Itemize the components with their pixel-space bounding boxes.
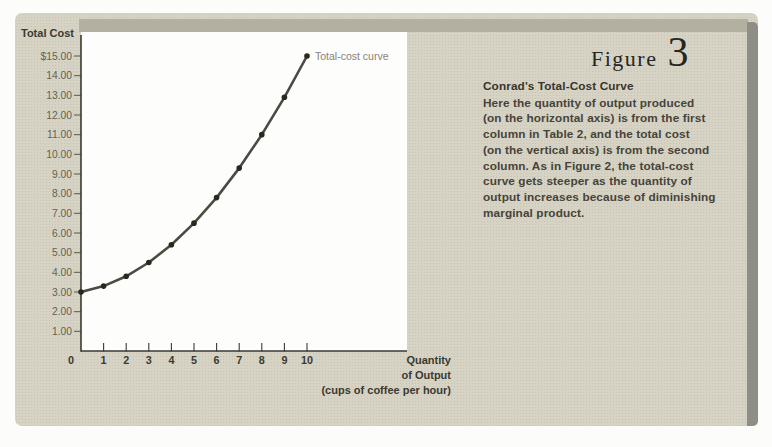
- data-point: [146, 260, 152, 266]
- figure-caption: Conrad's Total-Cost Curve Here the quant…: [483, 79, 749, 221]
- x-tick-label: 2: [123, 354, 129, 366]
- y-axis-title: Total Cost: [21, 27, 74, 39]
- y-tick-label: 10.00: [46, 149, 72, 160]
- series-annotation: Total-cost curve: [315, 50, 389, 62]
- y-tick-label: 6.00: [52, 228, 72, 239]
- x-tick-label: 1: [101, 354, 107, 366]
- x-tick-label: 4: [168, 354, 174, 366]
- total-cost-chart: Total Cost$15.0014.0013.0012.0011.0010.0…: [15, 13, 485, 413]
- x-tick-label: 6: [214, 354, 220, 366]
- data-point: [214, 195, 220, 201]
- y-tick-label: $15.00: [41, 51, 73, 62]
- y-tick-label: 8.00: [52, 188, 72, 199]
- y-tick-label: 9.00: [52, 169, 72, 180]
- data-point: [282, 95, 288, 101]
- y-tick-label: 12.00: [46, 110, 72, 121]
- y-tick-label: 2.00: [52, 306, 72, 317]
- y-tick-label: 4.00: [52, 267, 72, 278]
- y-tick-label: 11.00: [47, 129, 72, 140]
- data-point: [191, 220, 197, 226]
- chart-canvas: Total Cost$15.0014.0013.0012.0011.0010.0…: [15, 13, 485, 413]
- plot-background: [81, 32, 407, 351]
- y-tick-label: 1.00: [52, 326, 72, 337]
- y-tick-label: 13.00: [46, 90, 72, 101]
- data-point: [169, 242, 175, 248]
- figure-number: 3: [667, 31, 688, 73]
- y-tick-label: 5.00: [52, 247, 72, 258]
- caption-title: Conrad's Total-Cost Curve: [483, 79, 749, 95]
- x-tick-label: 0: [68, 354, 74, 366]
- x-tick-label: 5: [191, 354, 197, 366]
- data-point: [78, 289, 84, 295]
- x-tick-label: 9: [281, 354, 287, 366]
- figure-header: Figure 3: [591, 31, 688, 73]
- y-tick-label: 7.00: [52, 208, 72, 219]
- data-point: [304, 53, 310, 59]
- figure-panel: Total Cost$15.0014.0013.0012.0011.0010.0…: [15, 13, 758, 426]
- data-point: [123, 273, 129, 279]
- x-tick-label: 10: [301, 354, 313, 366]
- figure-label: Figure: [591, 46, 657, 72]
- y-tick-label: 14.00: [46, 70, 72, 81]
- data-point: [236, 165, 242, 171]
- x-axis-title-line: of Output: [402, 369, 452, 381]
- y-tick-label: 3.00: [52, 287, 72, 298]
- caption-body: Here the quantity of output produced (on…: [483, 96, 749, 222]
- x-tick-label: 3: [146, 354, 152, 366]
- x-tick-label: 7: [236, 354, 242, 366]
- x-tick-label: 8: [259, 354, 265, 366]
- data-point: [259, 132, 265, 138]
- x-axis-title-line: (cups of coffee per hour): [321, 384, 451, 396]
- x-axis-title-line: Quantity: [406, 354, 451, 366]
- data-point: [101, 283, 107, 289]
